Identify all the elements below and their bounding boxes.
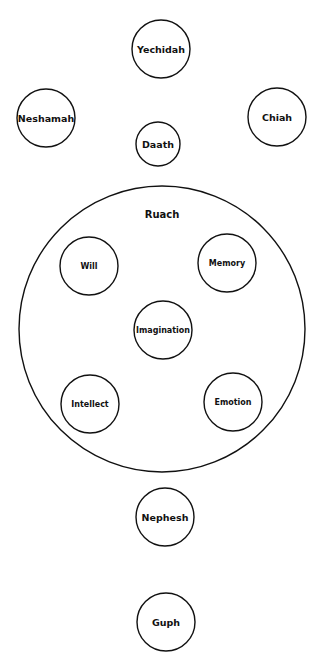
- node-chiah: Chiah: [248, 88, 306, 146]
- guph-label: Guph: [152, 617, 180, 628]
- node-daath: Daath: [136, 122, 180, 166]
- node-emotion: Emotion: [204, 373, 262, 431]
- node-nephesh: Nephesh: [136, 488, 194, 546]
- node-memory: Memory: [198, 234, 256, 292]
- intellect-label: Intellect: [71, 400, 109, 409]
- nephesh-label: Nephesh: [142, 512, 189, 523]
- chiah-label: Chiah: [262, 112, 292, 123]
- node-guph: Guph: [137, 593, 195, 651]
- neshamah-label: Neshamah: [18, 113, 75, 124]
- emotion-label: Emotion: [214, 398, 251, 407]
- memory-label: Memory: [209, 259, 246, 268]
- node-will: Will: [60, 237, 118, 295]
- node-imagination: Imagination: [134, 301, 192, 359]
- yechidah-label: Yechidah: [136, 44, 185, 55]
- soul-diagram: Ruach YechidahNeshamahChiahDaathWillMemo…: [0, 0, 316, 670]
- imagination-label: Imagination: [136, 326, 190, 335]
- node-yechidah: Yechidah: [132, 20, 190, 78]
- will-label: Will: [80, 262, 97, 271]
- daath-label: Daath: [142, 139, 174, 150]
- node-neshamah: Neshamah: [17, 89, 75, 147]
- node-intellect: Intellect: [61, 375, 119, 433]
- ruach-label: Ruach: [145, 209, 180, 220]
